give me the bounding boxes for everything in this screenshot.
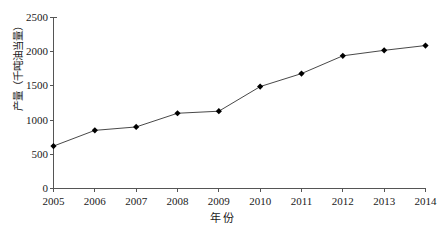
x-axis-tick-label: 2012 xyxy=(323,196,363,207)
axis-lines xyxy=(54,18,426,189)
data-series-line xyxy=(54,46,426,147)
x-axis-title: 年 份 xyxy=(0,212,444,224)
x-axis-tick-label: 2007 xyxy=(116,196,156,207)
data-point-markers xyxy=(50,42,428,149)
y-axis-tick-label: 0 xyxy=(14,183,48,194)
data-point-marker xyxy=(340,53,346,59)
data-point-marker xyxy=(133,124,139,130)
data-point-marker xyxy=(50,143,56,149)
data-point-marker xyxy=(92,127,98,133)
data-point-marker xyxy=(174,110,180,116)
data-point-marker xyxy=(216,108,222,114)
y-axis-title: 产量（千吨油当量） xyxy=(13,11,25,121)
x-axis-tick-label: 2014 xyxy=(406,196,444,207)
x-axis-tick-label: 2010 xyxy=(240,196,280,207)
line-chart: 25002000150010005000 2005200620072008200… xyxy=(0,0,444,232)
x-axis-tick-label: 2006 xyxy=(75,196,115,207)
x-axis-tick-label: 2009 xyxy=(199,196,239,207)
data-point-marker xyxy=(298,70,304,76)
x-axis-tick-label: 2005 xyxy=(34,196,74,207)
data-point-marker xyxy=(381,47,387,53)
axis-ticks xyxy=(50,18,426,193)
data-point-marker xyxy=(257,83,263,89)
y-axis-tick-label: 500 xyxy=(14,149,48,160)
x-axis-tick-label: 2008 xyxy=(158,196,198,207)
data-point-marker xyxy=(422,42,428,48)
x-axis-tick-label: 2011 xyxy=(282,196,322,207)
x-axis-tick-label: 2013 xyxy=(364,196,404,207)
